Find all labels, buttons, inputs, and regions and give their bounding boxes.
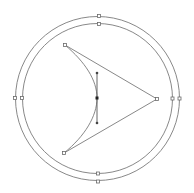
outer-circle-handle-top[interactable] (98, 15, 101, 18)
vertex-handle-top-left[interactable] (64, 44, 67, 47)
vertex-handle-bottom-left[interactable] (63, 152, 66, 155)
outer-circle-handle-bottom[interactable] (97, 180, 100, 183)
inner-circle-handle-bottom[interactable] (97, 172, 100, 175)
outer-circle-handle-right[interactable] (178, 97, 181, 100)
triangle-edge-top[interactable] (65, 45, 157, 99)
inner-circle-handle-left[interactable] (21, 97, 24, 100)
vertex-handle-right[interactable] (156, 98, 159, 101)
outer-circle-handle-left[interactable] (14, 97, 17, 100)
anchor-point[interactable] (96, 97, 99, 100)
canvas-svg (0, 0, 194, 193)
triangle-edge-bottom[interactable] (64, 99, 157, 153)
drawing-canvas[interactable] (0, 0, 194, 193)
inner-circle-handle-right[interactable] (171, 97, 174, 100)
inner-circle-handle-top[interactable] (98, 23, 101, 26)
control-handle-bottom[interactable] (96, 122, 99, 125)
control-handle-top[interactable] (96, 72, 99, 75)
